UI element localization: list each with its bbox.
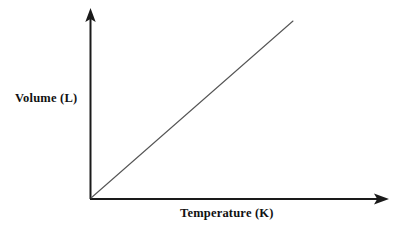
chart-plot-area <box>0 0 404 238</box>
chart-figure: Volume (L) Temperature (K) <box>0 0 404 238</box>
data-line-volume-vs-temperature <box>91 21 293 198</box>
x-axis-label: Temperature (K) <box>180 207 274 220</box>
y-axis-label: Volume (L) <box>15 92 77 105</box>
